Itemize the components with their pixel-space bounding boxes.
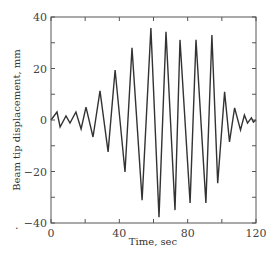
y-tick-label: −40 <box>24 217 47 230</box>
x-tick-label: 120 <box>246 227 267 240</box>
y-tick-label: 0 <box>40 114 47 127</box>
line-chart: 04080120−40−2002040 Time, sec Beam tip d… <box>0 0 275 264</box>
stray-dot: . <box>15 219 19 232</box>
x-tick-label: 80 <box>181 227 195 240</box>
x-tick-label: 0 <box>48 227 55 240</box>
axis-ticks <box>51 17 256 223</box>
x-axis-title: Time, sec <box>129 236 178 247</box>
x-tick-label: 40 <box>112 227 126 240</box>
plot-frame <box>51 17 256 223</box>
y-axis-title: Beam tip displacement, mm <box>11 49 22 191</box>
y-tick-label: 20 <box>33 63 47 76</box>
y-tick-label: −20 <box>24 166 47 179</box>
displacement-series-line <box>51 28 256 217</box>
y-tick-label: 40 <box>33 11 47 24</box>
